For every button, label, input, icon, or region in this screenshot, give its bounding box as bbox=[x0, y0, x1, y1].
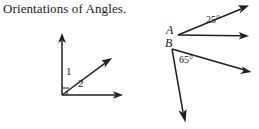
vertical-up-ray bbox=[58, 33, 66, 95]
angle-25-label: 25° bbox=[206, 14, 220, 25]
horizontal-right-ray bbox=[62, 91, 123, 99]
vertex-b-label: B bbox=[165, 38, 172, 49]
vertex-a-label: A bbox=[166, 25, 173, 36]
figure-page: Orientations of Angles. bbox=[0, 0, 259, 129]
angle-65-label: 65° bbox=[179, 54, 193, 65]
angle-2-label: 2 bbox=[78, 78, 84, 89]
angles-diagram bbox=[0, 0, 259, 129]
ray-a-lower bbox=[178, 32, 249, 40]
angle-1-label: 1 bbox=[66, 66, 72, 77]
